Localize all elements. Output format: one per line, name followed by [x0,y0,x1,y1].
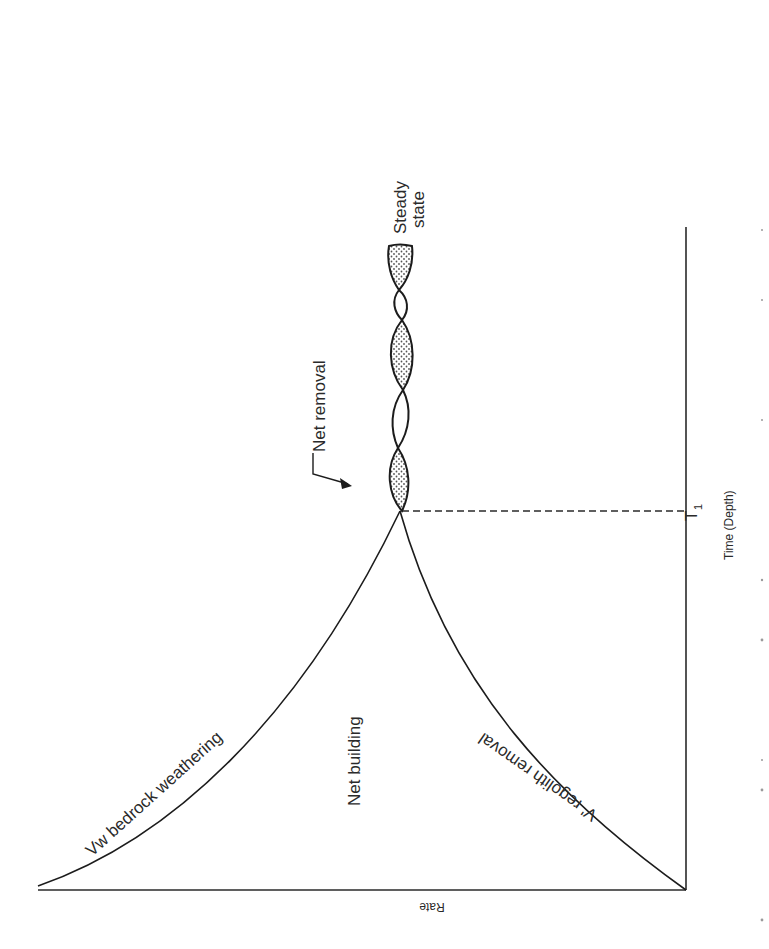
t1-label: T [682,511,701,521]
net-building-label: Net building [345,716,364,806]
scan-specks [761,229,764,921]
net-removal-lobe-1 [390,448,409,511]
open-lobe-1 [393,390,409,448]
time-axis-label: Time (Depth) [722,490,736,560]
bedrock-weathering-curve [38,511,400,886]
rate-axis-label: Rate [419,900,445,914]
regolith-removal-curve [400,511,686,890]
figure-canvas: Net removal Steady state Net building Vw… [0,0,769,949]
t1-subscript: 1 [692,504,704,510]
net-removal-lobe-2 [391,320,413,390]
bedrock-weathering-label: Vw bedrock weathering [82,728,226,860]
steady-state-label-line2: state [409,191,428,228]
net-removal-pointer [313,453,352,489]
steady-state-label-line1: Steady [391,181,410,234]
oscillation-lobes [388,245,412,512]
regolith-removal-label: V' regolith removal [475,729,601,825]
open-lobe-2 [394,290,407,320]
steady-state-lobe [388,245,412,291]
net-removal-label: Net removal [310,360,329,452]
